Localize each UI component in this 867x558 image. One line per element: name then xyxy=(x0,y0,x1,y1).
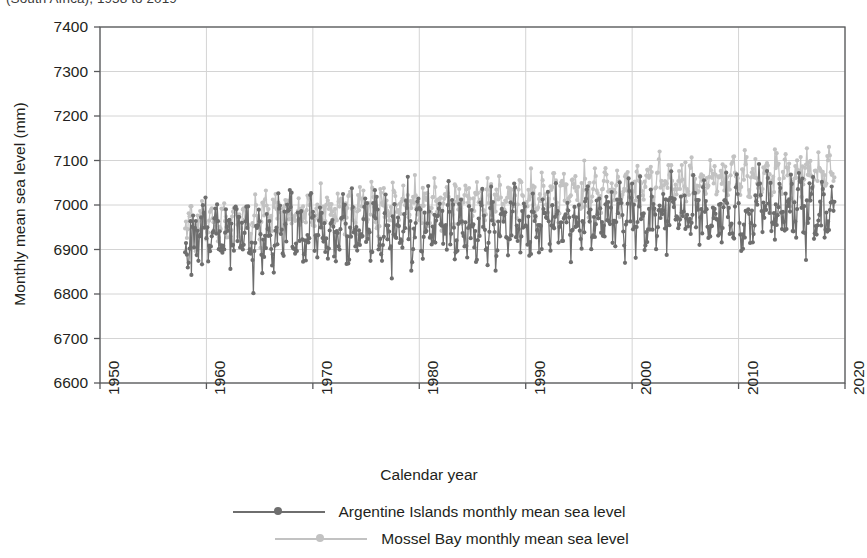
legend-key-argentine-islands xyxy=(233,505,325,519)
legend-item-argentine-islands: Argentine Islands monthly mean sea level xyxy=(0,498,858,525)
y-tick-label-6900: 6900 xyxy=(26,242,88,258)
y-tick-label-6700: 6700 xyxy=(26,331,88,347)
chart-legend: Argentine Islands monthly mean sea level… xyxy=(0,498,858,552)
y-tick-label-7300: 7300 xyxy=(26,64,88,80)
x-tick-label-1950: 1950 xyxy=(106,361,122,395)
legend-key-mossel-bay xyxy=(275,532,367,546)
y-tick-label-7100: 7100 xyxy=(26,153,88,169)
legend-label-mossel-bay: Mossel Bay monthly mean sea level xyxy=(381,530,628,548)
x-tick-label-2010: 2010 xyxy=(745,361,761,395)
legend-marker-icon xyxy=(316,534,324,542)
y-tick-label-6600: 6600 xyxy=(26,375,88,391)
legend-marker-icon xyxy=(274,507,282,515)
x-tick-label-2000: 2000 xyxy=(638,361,654,395)
y-tick-label-7400: 7400 xyxy=(26,19,88,35)
legend-label-argentine-islands: Argentine Islands monthly mean sea level xyxy=(339,503,626,521)
legend-item-mossel-bay: Mossel Bay monthly mean sea level xyxy=(0,525,858,552)
x-tick-label-1980: 1980 xyxy=(425,361,441,395)
y-tick-label-7000: 7000 xyxy=(26,197,88,213)
y-tick-label-7200: 7200 xyxy=(26,108,88,124)
y-tick-label-6800: 6800 xyxy=(26,286,88,302)
x-tick-label-1960: 1960 xyxy=(212,361,228,395)
chart-title-clipped: (South Africa), 1958 to 2019 xyxy=(6,0,177,6)
x-tick-label-2020: 2020 xyxy=(851,361,867,395)
x-axis-title: Calendar year xyxy=(0,466,858,484)
x-tick-label-1970: 1970 xyxy=(319,361,335,395)
x-tick-label-1990: 1990 xyxy=(532,361,548,395)
